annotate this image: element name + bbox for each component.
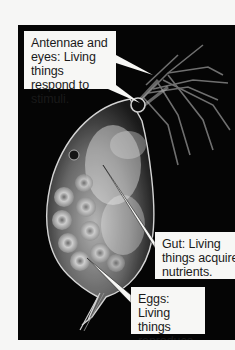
label-gut-line-3: nutrients. (162, 265, 235, 279)
label-antennae-eyes: Antennae and eyes: Living things respond… (24, 31, 116, 89)
compound-eye (131, 98, 145, 112)
antennae-branches (136, 45, 230, 165)
figure-page: Antennae and eyes: Living things respond… (0, 0, 235, 350)
label-gut-line-2: things acquire (162, 251, 235, 265)
label-eggs-line-1: Eggs: Living (138, 292, 199, 320)
label-eggs-line-3: reproduce. (138, 334, 199, 340)
label-gut: Gut: Living things acquire nutrients. (155, 232, 235, 279)
label-gut-line-1: Gut: Living (162, 237, 235, 251)
label-eggs-line-2: things (138, 320, 199, 334)
daphnia-photo: Antennae and eyes: Living things respond… (18, 25, 235, 340)
label-eggs: Eggs: Living things reproduce. (131, 287, 205, 334)
